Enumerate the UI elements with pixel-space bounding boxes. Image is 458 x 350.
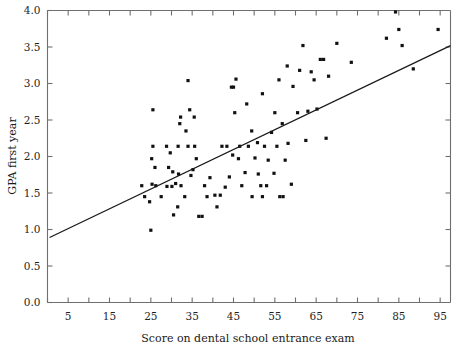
data-point [273, 111, 276, 114]
y-tick-label: 2.0 [24, 150, 41, 162]
x-tick-label: 55 [268, 310, 281, 322]
data-point [177, 145, 180, 148]
data-point [170, 185, 173, 188]
data-point [203, 184, 206, 187]
data-point [412, 67, 415, 70]
data-point [193, 115, 196, 118]
y-tick-label: 0.0 [24, 296, 41, 308]
data-point [233, 111, 236, 114]
data-point [150, 183, 153, 186]
data-point [186, 145, 189, 148]
data-point [205, 195, 208, 198]
data-point [153, 166, 156, 169]
data-point [267, 159, 270, 162]
data-point [257, 172, 260, 175]
data-point [286, 142, 289, 145]
data-point [397, 28, 400, 31]
data-point [281, 122, 284, 125]
data-point [310, 70, 313, 73]
y-tick-label: 3.5 [24, 41, 41, 53]
data-point [298, 69, 301, 72]
x-tick-label: 35 [185, 310, 198, 322]
data-point [291, 85, 294, 88]
data-point [174, 182, 177, 185]
data-point [220, 145, 223, 148]
data-point [178, 122, 181, 125]
data-point [193, 145, 196, 148]
data-point [278, 195, 281, 198]
data-point [234, 78, 237, 81]
data-point [263, 145, 266, 148]
data-point [313, 78, 316, 81]
data-point [237, 157, 240, 160]
data-point [224, 186, 227, 189]
data-point [150, 157, 153, 160]
y-axis-ticks [48, 11, 53, 303]
data-point [189, 174, 192, 177]
data-point [251, 195, 254, 198]
data-point [350, 61, 353, 64]
data-point [247, 145, 250, 148]
data-point [148, 200, 151, 203]
y-tick-label: 4.0 [24, 4, 41, 16]
y-tick-label: 3.0 [24, 77, 41, 89]
y-tick-label: 1.5 [24, 187, 41, 199]
data-point [401, 44, 404, 47]
data-point [183, 195, 186, 198]
x-tick-label: 65 [309, 310, 322, 322]
data-point [385, 37, 388, 40]
data-point [167, 166, 170, 169]
data-point [160, 195, 163, 198]
data-point [195, 157, 198, 160]
y-axis-tick-labels: 0.00.51.01.52.02.53.03.54.0 [24, 4, 41, 308]
right-axis-ticks [446, 47, 451, 266]
x-axis-tick-labels: 5152535455565758595 [65, 310, 447, 322]
data-point [394, 10, 397, 13]
regression-line [50, 46, 451, 238]
data-point [179, 115, 182, 118]
data-point [301, 44, 304, 47]
data-point [265, 184, 268, 187]
data-point [225, 145, 228, 148]
data-point [290, 183, 293, 186]
x-tick-label: 15 [103, 310, 116, 322]
data-point [151, 145, 154, 148]
data-point [245, 102, 248, 105]
scatter-chart-figure: 5152535455565758595 0.00.51.01.52.02.53.… [0, 0, 458, 350]
data-point [208, 176, 211, 179]
top-axis-ticks [48, 11, 441, 16]
x-tick-label: 75 [351, 310, 364, 322]
data-point [272, 172, 275, 175]
data-point [250, 129, 253, 132]
data-point [322, 58, 325, 61]
data-point [253, 156, 256, 159]
data-point [243, 171, 246, 174]
y-tick-label: 0.5 [24, 260, 41, 272]
data-point [169, 151, 172, 154]
data-point [151, 108, 154, 111]
y-tick-label: 2.5 [24, 114, 41, 126]
data-point [275, 145, 278, 148]
x-tick-label: 25 [144, 310, 157, 322]
x-tick-label: 85 [392, 310, 405, 322]
data-point [165, 145, 168, 148]
scatter-points [140, 10, 440, 231]
data-point [306, 110, 309, 113]
data-point [186, 79, 189, 82]
data-point [240, 184, 243, 187]
x-tick-label: 5 [65, 310, 72, 322]
data-point [282, 195, 285, 198]
data-point [259, 184, 262, 187]
data-point [261, 195, 264, 198]
data-point [232, 86, 235, 89]
x-tick-label: 95 [433, 310, 446, 322]
y-axis-title: GPA first year [6, 117, 19, 195]
data-point [261, 92, 264, 95]
x-tick-label: 45 [227, 310, 240, 322]
data-point [179, 184, 182, 187]
data-point [176, 205, 179, 208]
data-point [228, 175, 231, 178]
data-point [143, 195, 146, 198]
data-point [172, 213, 175, 216]
data-point [256, 141, 259, 144]
